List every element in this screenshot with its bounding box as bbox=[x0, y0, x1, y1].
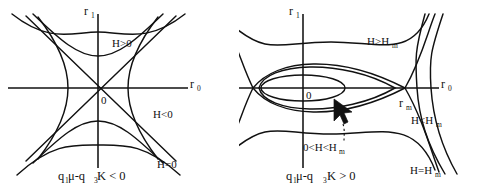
svg-text:K > 0: K > 0 bbox=[327, 169, 356, 183]
svg-text:r: r bbox=[84, 4, 88, 18]
right-label-H-greater: H>H m bbox=[367, 35, 398, 50]
right-curve-Hlt-1 bbox=[416, 14, 445, 174]
svg-text:m: m bbox=[406, 103, 412, 112]
right-separatrix-leg-lr bbox=[405, 88, 439, 172]
panel-right: r 1 r 0 0 r m H>H m H<H m H=H m 0<H<H m bbox=[239, 0, 477, 189]
left-x-axis-label: r 0 bbox=[190, 77, 201, 93]
left-label-H-zero: H=0 bbox=[157, 158, 177, 170]
left-label-H-negative: H<0 bbox=[153, 108, 173, 120]
right-curve-Hlt-2 bbox=[430, 14, 457, 174]
svg-text:1: 1 bbox=[91, 11, 95, 20]
right-label-H-less: H<H m bbox=[411, 114, 442, 129]
svg-text:H=H: H=H bbox=[410, 164, 432, 176]
svg-text:m: m bbox=[435, 170, 441, 179]
svg-text:H<H: H<H bbox=[411, 114, 433, 126]
cursor-arrow-icon bbox=[334, 99, 352, 124]
svg-text:r: r bbox=[190, 77, 194, 91]
annotation-leader-line bbox=[343, 124, 344, 141]
right-y-axis-label: r 1 bbox=[289, 4, 300, 20]
svg-text:r: r bbox=[441, 77, 445, 91]
right-curve-Hgt-lower bbox=[239, 131, 435, 170]
right-x-axis-label: r 0 bbox=[441, 77, 452, 93]
svg-text:1: 1 bbox=[296, 11, 300, 20]
svg-text:r: r bbox=[399, 96, 403, 110]
right-origin-label: 0 bbox=[306, 89, 312, 101]
svg-text:m: m bbox=[436, 120, 442, 129]
svg-text:0: 0 bbox=[448, 84, 452, 93]
svg-text:K < 0: K < 0 bbox=[97, 169, 126, 183]
right-label-H-between: 0<H<H m bbox=[303, 141, 345, 156]
left-y-axis-label: r 1 bbox=[84, 4, 95, 20]
svg-text:q: q bbox=[58, 169, 65, 183]
panel-left: r 1 r 0 0 H>0 H<0 H=0 q 1 μ-q 3 K < 0 bbox=[0, 0, 239, 189]
svg-text:H>H: H>H bbox=[367, 35, 389, 47]
svg-text:μ-q: μ-q bbox=[68, 169, 86, 183]
left-label-H-positive: H>0 bbox=[112, 37, 132, 49]
right-separatrix-leg-ul bbox=[239, 44, 253, 88]
svg-text:r: r bbox=[289, 4, 293, 18]
svg-text:m: m bbox=[339, 147, 345, 156]
left-origin-label: 0 bbox=[101, 94, 107, 106]
svg-text:m: m bbox=[392, 41, 398, 50]
right-caption: q 1 μ-q 3 K > 0 bbox=[286, 169, 356, 185]
left-caption: q 1 μ-q 3 K < 0 bbox=[58, 169, 126, 185]
figure-container: r 1 r 0 0 H>0 H<0 H=0 q 1 μ-q 3 K < 0 bbox=[0, 0, 477, 189]
svg-text:q: q bbox=[286, 169, 293, 183]
svg-text:0<H<H: 0<H<H bbox=[303, 141, 337, 153]
right-separatrix-leg-ll bbox=[239, 88, 253, 132]
svg-text:0: 0 bbox=[197, 84, 201, 93]
svg-text:μ-q: μ-q bbox=[296, 169, 314, 183]
right-curve-Hgt-upper bbox=[239, 14, 429, 45]
